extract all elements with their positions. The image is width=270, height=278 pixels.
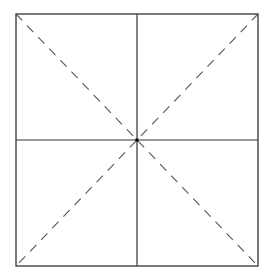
folding-diagram <box>0 0 270 278</box>
cropped-caption <box>0 272 270 278</box>
center-point <box>136 139 139 142</box>
